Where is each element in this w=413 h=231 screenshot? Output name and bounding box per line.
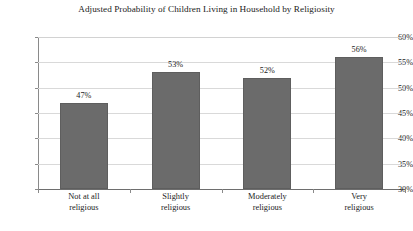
bar-value-label: 52% <box>260 66 275 75</box>
bar-chart: Adjusted Probability of Children Living … <box>0 0 413 231</box>
category-label-line: religious <box>68 203 99 214</box>
category-label-line: Slightly <box>161 192 190 203</box>
bar-value-label: 56% <box>352 45 367 54</box>
x-axis-tick-mark <box>38 189 39 193</box>
x-axis-tick-mark <box>313 189 314 193</box>
x-axis-category-label: Slightlyreligious <box>161 192 190 213</box>
x-axis-tick-mark <box>405 189 406 193</box>
category-label-line: Very <box>344 192 373 203</box>
x-axis-tick-mark <box>130 189 131 193</box>
category-label-line: Moderately <box>248 192 287 203</box>
clipped-caption <box>0 222 413 231</box>
y-axis-tick-label: 30% <box>380 185 413 194</box>
bar-value-label: 47% <box>76 91 91 100</box>
category-label-line: religious <box>248 203 287 214</box>
x-axis-category-label: Veryreligious <box>344 192 373 213</box>
bar <box>152 72 200 189</box>
category-label-line: Not at all <box>68 192 99 203</box>
chart-title: Adjusted Probability of Children Living … <box>0 4 413 14</box>
bar-value-label: 53% <box>168 60 183 69</box>
bar <box>60 103 108 189</box>
x-axis-category-label: Moderatelyreligious <box>248 192 287 213</box>
bar <box>243 78 291 189</box>
bar <box>335 57 383 189</box>
category-label-line: religious <box>344 203 373 214</box>
category-label-line: religious <box>161 203 190 214</box>
x-axis-category-label: Not at allreligious <box>68 192 99 213</box>
gridline <box>38 37 405 38</box>
x-axis-tick-mark <box>222 189 223 193</box>
